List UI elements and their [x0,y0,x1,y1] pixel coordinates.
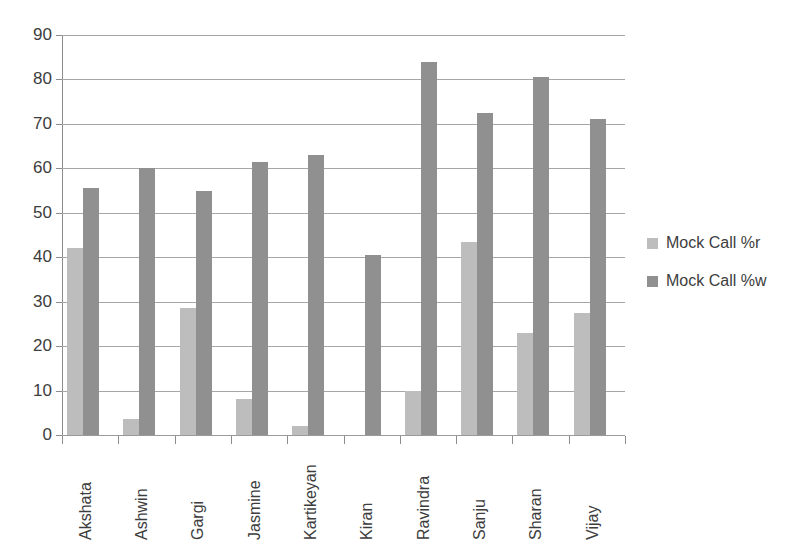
bar [461,242,477,435]
y-axis-tick-label: 50 [6,204,52,221]
x-axis-tick-mark [118,436,119,444]
bar-group [512,35,568,435]
bar [83,188,99,435]
x-axis-tick-mark [231,436,232,444]
legend-label: Mock Call %w [666,272,766,290]
x-axis-category-label: Ravindra [415,476,433,540]
x-axis-tick-mark [62,436,63,444]
bar-group [456,35,512,435]
x-axis-label-wrap: Sanju [473,448,493,540]
x-axis-label-wrap: Ravindra [417,448,437,540]
x-axis-label-wrap: Sharan [529,448,549,540]
x-axis-category-label: Kiran [358,503,376,540]
bar [123,419,139,435]
y-axis-tick-labels: 0102030405060708090 [0,35,52,435]
bar [139,168,155,435]
y-axis-tick-label: 80 [6,70,52,87]
x-axis-label-wrap: Ashwin [135,448,155,540]
y-axis-tick-label: 60 [6,159,52,176]
bar-group [62,35,118,435]
bar [308,155,324,435]
x-axis-category-label: Jasmine [246,480,264,540]
bar-chart: 0102030405060708090 AkshataAshwinGargiJa… [0,0,796,545]
x-axis-tick-mark [456,436,457,444]
x-axis-category-label: Kartikeyan [302,464,320,540]
x-axis-label-wrap: Gargi [191,448,211,540]
x-axis-label-wrap: Kiran [360,448,380,540]
x-axis-label-wrap: Vijay [586,448,606,540]
bar [421,62,437,435]
bar-group [344,35,400,435]
bar [574,313,590,435]
bar [292,426,308,435]
x-axis-label-wrap: Kartikeyan [304,448,324,540]
bar [590,119,606,435]
x-axis-tick-mark [175,436,176,444]
y-axis-tick-label: 90 [6,26,52,43]
x-axis-tick-mark [512,436,513,444]
bar-group [118,35,174,435]
legend-label: Mock Call %r [666,234,760,252]
bar [236,399,252,435]
bar-group [231,35,287,435]
y-axis-tick-label: 0 [6,426,52,443]
bar [196,191,212,435]
y-axis-tick-label: 10 [6,382,52,399]
x-axis-label-wrap: Akshata [79,448,99,540]
x-axis-category-label: Akshata [77,482,95,540]
bar [517,333,533,435]
bar [180,308,196,435]
y-axis-tick-label: 20 [6,337,52,354]
x-axis-tick-mark [569,436,570,444]
x-axis-category-label: Gargi [189,501,207,540]
bar [477,113,493,435]
bar-group [569,35,625,435]
bar [67,248,83,435]
x-axis-label-wrap: Jasmine [248,448,268,540]
x-axis-category-label: Vijay [584,506,602,540]
y-axis-tick-label: 70 [6,115,52,132]
x-axis-category-label: Sanju [471,499,489,540]
bar [365,255,381,435]
x-axis-category-label: Ashwin [133,488,151,540]
x-axis-tick-mark [625,436,626,444]
y-axis-tick-label: 30 [6,293,52,310]
bar-group [287,35,343,435]
legend-item: Mock Call %w [647,272,792,290]
legend-item: Mock Call %r [647,234,792,252]
bar-group [400,35,456,435]
x-axis-tick-mark [287,436,288,444]
y-axis-tick-label: 40 [6,248,52,265]
legend-swatch-icon [647,238,658,249]
chart-legend: Mock Call %rMock Call %w [647,234,792,310]
plot-area [62,35,625,435]
x-axis-tick-mark [344,436,345,444]
bar [405,391,421,435]
bar-group [175,35,231,435]
legend-swatch-icon [647,276,658,287]
x-axis-tick-mark [400,436,401,444]
bar [533,77,549,435]
x-axis-category-label: Sharan [527,488,545,540]
bar [252,162,268,435]
